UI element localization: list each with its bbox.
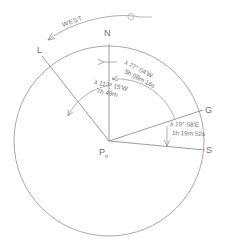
navigation-longitude-diagram: WEST N L G S P n λ 77° 04'W 5h 08m 16s λ… <box>0 0 231 246</box>
west-direction-arc <box>48 16 140 40</box>
point-label-south: S <box>206 145 212 155</box>
east-arc-longitude-label: λ 19° 58'E <box>170 120 199 128</box>
west-arc-node-icon <box>128 13 134 19</box>
radius-to-south <box>109 141 205 150</box>
east-arc-time-label: 1h 19m 52s <box>172 129 206 137</box>
point-label-north: N <box>104 28 111 38</box>
point-label-greenwich: G <box>205 105 212 115</box>
point-label-local: L <box>37 45 42 55</box>
west-label: WEST <box>61 14 84 28</box>
radius-to-local <box>42 56 109 141</box>
point-label-center-subscript: n <box>105 153 108 159</box>
diagram-canvas: WEST N L G S P n λ 77° 04'W 5h 08m 16s λ… <box>0 0 231 246</box>
